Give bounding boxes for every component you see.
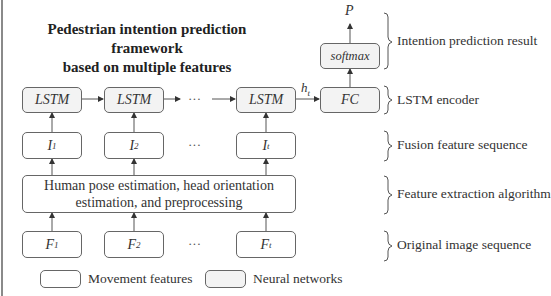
fusion-box-1: I1 [22, 132, 82, 159]
lstm-label: LSTM [117, 92, 151, 108]
stage-label-intention: Intention prediction result [397, 33, 537, 49]
fusion-box-t: It [236, 132, 296, 159]
ellipsis-frames: ··· [188, 236, 201, 252]
legend-label-neural: Neural networks [253, 271, 343, 287]
output-p-label: P [345, 3, 354, 19]
feature-extraction-box: Human pose estimation, head orientation … [22, 175, 296, 213]
softmax-label: softmax [331, 49, 370, 64]
fusion-sub: t [267, 141, 270, 151]
hidden-state-sub: t [308, 88, 311, 98]
lstm-box-2: LSTM [104, 87, 164, 113]
fusion-sub: 2 [134, 141, 139, 151]
legend-swatch-movement [40, 270, 81, 288]
frame-base: F [260, 237, 269, 253]
stage-label-fusion: Fusion feature sequence [397, 137, 527, 153]
feature-extraction-line-2: estimation, and preprocessing [76, 194, 243, 211]
stage-label-original-images: Original image sequence [397, 237, 531, 253]
stage-label-lstm-encoder: LSTM encoder [397, 92, 479, 108]
legend-label-movement: Movement features [88, 271, 193, 287]
feature-extraction-line-1: Human pose estimation, head orientation [44, 177, 274, 194]
lstm-box-t: LSTM [236, 87, 296, 113]
brace-icons [384, 13, 392, 261]
lstm-box-1: LSTM [22, 87, 82, 113]
lstm-label: LSTM [249, 92, 283, 108]
fusion-sub: 1 [52, 141, 57, 151]
stage-label-feature-extraction: Feature extraction algorithm [397, 186, 551, 202]
frame-box-t: Ft [236, 231, 296, 258]
frame-base: F [127, 237, 136, 253]
ellipsis-fusion: ··· [188, 137, 201, 153]
frame-sub: 1 [54, 240, 59, 250]
frame-box-2: F2 [104, 231, 164, 258]
fc-label: FC [341, 92, 359, 108]
lstm-label: LSTM [35, 92, 69, 108]
fusion-box-2: I2 [104, 132, 164, 159]
fc-box: FC [320, 87, 380, 113]
frame-box-1: F1 [22, 231, 82, 258]
ellipsis-lstm: ··· [188, 91, 201, 107]
frame-base: F [45, 237, 54, 253]
softmax-box: softmax [320, 43, 380, 69]
frame-sub: t [269, 240, 272, 250]
hidden-state-label: ht [301, 80, 310, 98]
frame-sub: 2 [136, 240, 141, 250]
legend-swatch-neural [205, 270, 246, 288]
